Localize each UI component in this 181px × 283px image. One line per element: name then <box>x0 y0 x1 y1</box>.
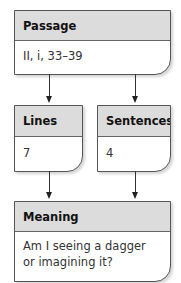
arrow-down-icon <box>132 96 138 103</box>
meaning-header: Meaning <box>15 202 170 232</box>
sentences-header: Sentences <box>98 106 170 137</box>
meaning-value: Am I seeing a dagger or imagining it? <box>15 232 170 276</box>
lines-box: Lines 7 <box>14 105 83 172</box>
arrow-down-icon <box>46 192 52 199</box>
connector-passage-sentences <box>135 74 136 97</box>
lines-value: 7 <box>15 137 82 167</box>
passage-box: Passage II, i, 33–39 <box>14 10 171 75</box>
meaning-box: Meaning Am I seeing a dagger or imaginin… <box>14 201 171 282</box>
passage-header: Passage <box>15 11 170 41</box>
passage-value: II, i, 33–39 <box>15 41 170 70</box>
arrow-down-icon <box>46 96 52 103</box>
connector-sentences-meaning <box>135 171 136 193</box>
connector-passage-lines <box>49 74 50 97</box>
sentences-box: Sentences 4 <box>97 105 171 172</box>
sentences-value: 4 <box>98 137 170 167</box>
arrow-down-icon <box>132 192 138 199</box>
connector-lines-meaning <box>49 171 50 193</box>
lines-header: Lines <box>15 106 82 137</box>
